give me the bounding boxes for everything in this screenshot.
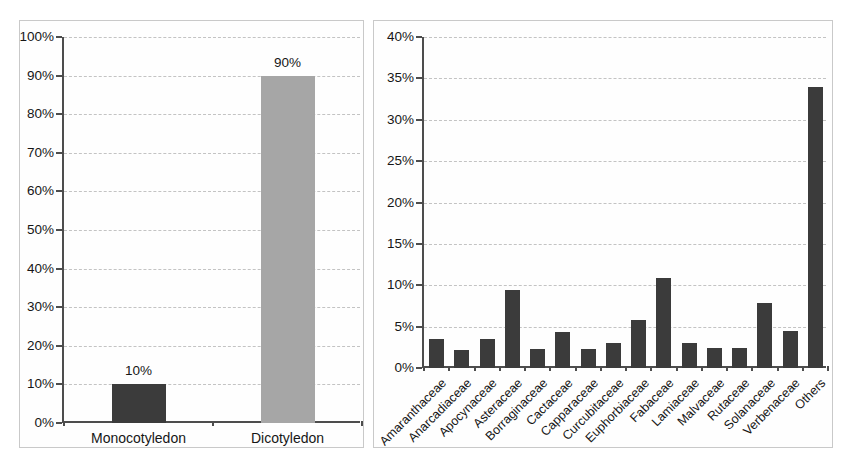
gridline [64,37,360,38]
y-axis-tick [56,190,62,192]
bar-monocotyledon [112,384,166,423]
y-axis-label: 40% [387,29,414,44]
y-axis-label: 80% [27,106,54,121]
x-axis-label: Monocotyledon [69,430,209,446]
gridline [64,191,360,192]
y-axis-tick [56,152,62,154]
y-axis-label: 25% [387,153,414,168]
y-axis-tick [416,243,422,245]
y-axis-tick [56,345,62,347]
cotyledon-chart: 0%10%20%30%40%50%60%70%80%90%100%10%Mono… [19,20,364,448]
x-axis-label: Dicotyledon [218,430,358,446]
x-axis-tick [549,366,551,371]
x-axis-tick [212,421,214,426]
gridline [64,307,360,308]
y-axis-tick [56,383,62,385]
bar-solanaceae [757,303,772,368]
x-axis-tick [827,366,829,371]
gridline [64,230,360,231]
gridline [424,120,826,121]
y-axis-label: 35% [387,70,414,85]
bar-euphorbiaceae [631,320,646,368]
plot-area: 0%10%20%30%40%50%60%70%80%90%100%10%Mono… [62,37,360,423]
bar-dicotyledon [261,76,315,423]
y-axis-tick [56,422,62,424]
y-axis-tick [416,36,422,38]
x-axis-tick [361,421,363,426]
x-axis-tick [474,366,476,371]
y-axis-label: 90% [27,67,54,82]
x-axis-tick [448,366,450,371]
gridline [424,161,826,162]
y-axis-label: 60% [27,183,54,198]
two-panel-bar-figure: 0%10%20%30%40%50%60%70%80%90%100%10%Mono… [0,0,857,465]
gridline [424,37,826,38]
x-axis-tick [524,366,526,371]
x-axis-tick [701,366,703,371]
bar-cactaceae [555,332,570,368]
x-axis-tick [575,366,577,371]
x-axis-tick [777,366,779,371]
gridline [424,203,826,204]
y-axis-label: 5% [394,319,414,334]
y-axis-label: 40% [27,260,54,275]
y-axis-label: 50% [27,222,54,237]
y-axis-tick [416,119,422,121]
bar-fabaceae [656,278,671,368]
family-distribution-chart: 0%5%10%15%20%25%30%35%40%AmaranthaceaeAn… [373,20,833,448]
y-axis-tick [416,202,422,204]
x-axis-tick [600,366,602,371]
y-axis-label: 30% [387,112,414,127]
y-axis-label: 20% [387,194,414,209]
gridline [64,76,360,77]
y-axis-label: 30% [27,299,54,314]
y-axis-tick [416,77,422,79]
x-axis-tick [802,366,804,371]
y-axis-tick [416,367,422,369]
gridline [64,384,360,385]
y-axis-tick [416,160,422,162]
y-axis-label: 10% [27,376,54,391]
bar-value-label: 10% [104,363,174,378]
x-axis-tick [499,366,501,371]
y-axis-tick [56,113,62,115]
y-axis-tick [56,75,62,77]
bar-anarcadiaceae [454,350,469,368]
y-axis-label: 15% [387,236,414,251]
bar-curcubitaceae [606,343,621,368]
y-axis-tick [56,36,62,38]
bar-amaranthaceae [429,339,444,368]
x-axis-tick [650,366,652,371]
bar-capparaceae [581,349,596,368]
y-axis-tick [56,268,62,270]
gridline [64,114,360,115]
bar-asteraceae [505,290,520,368]
gridline [424,78,826,79]
plot-area: 0%5%10%15%20%25%30%35%40%AmaranthaceaeAn… [422,37,826,368]
gridline [64,153,360,154]
y-axis-label: 0% [394,360,414,375]
bar-apocynaceae [480,339,495,368]
y-axis-label: 70% [27,145,54,160]
bar-others [808,87,823,368]
bar-lamiaceae [682,343,697,368]
x-axis-tick [751,366,753,371]
y-axis-tick [416,284,422,286]
gridline [424,285,826,286]
y-axis-tick [416,326,422,328]
bar-verbenaceae [783,331,798,368]
x-axis-tick [63,421,65,426]
gridline [424,244,826,245]
y-axis-label: 0% [34,415,54,430]
y-axis-tick [56,229,62,231]
gridline [64,346,360,347]
bar-malvaceae [707,348,722,368]
x-axis-tick [423,366,425,371]
x-axis-tick [625,366,627,371]
gridline [64,269,360,270]
y-axis-label: 20% [27,338,54,353]
y-axis-label: 10% [387,277,414,292]
x-axis-tick [676,366,678,371]
y-axis-tick [56,306,62,308]
bar-rutaceae [732,348,747,368]
